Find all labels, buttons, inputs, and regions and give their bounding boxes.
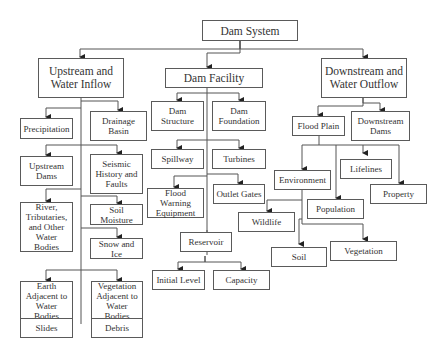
node-downstream-water-outflow: Downstream and Water Outflow [321, 58, 407, 98]
node-turbines: Turbines [212, 149, 266, 169]
node-population: Population [307, 199, 364, 219]
node-soil: Soil [271, 247, 327, 267]
node-precipitation: Precipitation [20, 118, 73, 139]
node-upstream-dams: Upstream Dams [20, 156, 73, 186]
node-dam-structure: Dam Structure [151, 101, 204, 131]
node-initial-level: Initial Level [152, 270, 205, 290]
node-flood-warning-equipment: Flood Warning Equipment [147, 188, 204, 218]
node-outlet-gates: Outlet Gates [213, 184, 265, 204]
node-soil-moisture: Soil Moisture [90, 204, 143, 225]
node-reservoir: Reservoir [180, 232, 232, 252]
node-vegetation-adjacent: Vegetation Adjacent to Water Bodies [91, 281, 143, 321]
node-earth-adjacent: Earth Adjacent to Water Bodies [20, 281, 73, 321]
node-upstream-water-inflow: Upstream and Water Inflow [38, 58, 124, 98]
node-property: Property [370, 184, 427, 204]
dam-system-diagram: Dam System Upstream and Water Inflow Dam… [0, 0, 443, 355]
node-environment: Environment [274, 170, 331, 190]
node-dam-system: Dam System [202, 20, 298, 41]
node-flood-plain: Flood Plain [292, 116, 345, 136]
node-snow-and-ice: Snow and Ice [90, 238, 143, 259]
node-seismic-history-faults: Seismic History and Faults [90, 154, 143, 194]
node-wildlife: Wildlife [238, 212, 295, 232]
node-spillway: Spillway [151, 149, 204, 169]
node-capacity: Capacity [213, 270, 270, 290]
node-dam-foundation: Dam Foundation [212, 101, 266, 131]
node-drainage-basin: Drainage Basin [90, 111, 147, 141]
node-vegetation: Vegetation [330, 241, 397, 261]
node-lifelines: Lifelines [340, 159, 392, 179]
node-downstream-dams: Downstream Dams [351, 111, 410, 141]
node-dam-facility: Dam Facility [165, 68, 263, 88]
node-slides: Slides [20, 318, 73, 338]
node-river-tributaries: River, Tributaries, and Other Water Bodi… [20, 202, 73, 252]
node-debris: Debris [91, 318, 143, 338]
